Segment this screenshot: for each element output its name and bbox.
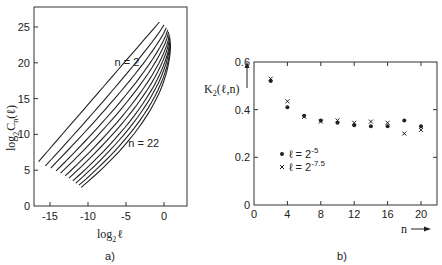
y-tick-label: 5: [24, 164, 30, 176]
panel-a-annotations: n = 2n = 22: [115, 56, 160, 149]
panel-a-x-ticks: -15-10-50: [42, 202, 167, 222]
panel-b-x-arrow-icon: [411, 227, 431, 232]
panel-b-chart: 048121620 00.20.40.6 K2(ℓ,n) n ℓ = 2-5 ℓ…: [204, 56, 437, 262]
panel-b-label: b): [337, 250, 347, 262]
panel-b-x-ticks: 048121620: [251, 62, 427, 220]
legend-dot-marker-icon: [280, 152, 284, 156]
curve-annotation: n = 22: [128, 137, 159, 149]
legend-item-2: ℓ = 2-7.5: [289, 159, 326, 173]
panel-b-plot-frame: [254, 62, 437, 205]
x-tick-label: -10: [80, 210, 96, 222]
curve-n-8: [56, 30, 168, 171]
y-tick-label: 0: [244, 199, 250, 211]
panel-a-curves: [39, 22, 171, 187]
x-tick-label: -15: [42, 210, 58, 222]
y-tick-label: 0.4: [235, 104, 250, 116]
y-tick-label: 15: [18, 93, 30, 105]
curve-annotation: n = 2: [115, 56, 140, 68]
dot-marker-icon: [285, 105, 289, 109]
panel-b-x-axis-label: n: [401, 222, 407, 236]
panel-a-plot-frame: [34, 7, 187, 206]
figure: -15-10-50 0510152025 n = 2n = 22 log2Cn(…: [0, 0, 442, 265]
panel-a-label: a): [105, 250, 115, 262]
panel-b-y-axis-label: K2(ℓ,n): [204, 82, 239, 98]
dot-marker-icon: [386, 124, 390, 128]
x-tick-label: 12: [348, 208, 360, 220]
y-tick-label: 20: [18, 57, 30, 69]
y-tick-label: 25: [18, 21, 30, 33]
x-tick-label: 16: [381, 208, 393, 220]
x-tick-label: -5: [121, 210, 131, 222]
panel-a-y-ticks: 0510152025: [18, 21, 38, 212]
panel-b-y-ticks: 00.20.40.6: [235, 56, 437, 211]
x-tick-label: 8: [318, 208, 324, 220]
y-tick-label: 0: [24, 200, 30, 212]
x-tick-label: 4: [284, 208, 290, 220]
y-tick-label: 0.2: [235, 151, 250, 163]
dot-marker-icon: [419, 124, 423, 128]
x-tick-label: 20: [415, 208, 427, 220]
dot-marker-icon: [369, 124, 373, 128]
panel-a-chart: -15-10-50 0510152025 n = 2n = 22 log2Cn(…: [4, 7, 187, 262]
legend-item-1: ℓ = 2-5: [289, 146, 319, 160]
panel-b-legend: ℓ = 2-5 ℓ = 2-7.5: [280, 146, 326, 173]
legend-cross-marker-icon: [280, 165, 284, 169]
x-tick-label: 0: [161, 210, 167, 222]
panel-a-x-axis-label: log2ℓ: [97, 227, 123, 244]
panel-b-data-points: [269, 77, 423, 136]
dot-marker-icon: [402, 118, 406, 122]
x-tick-label: 0: [251, 208, 257, 220]
